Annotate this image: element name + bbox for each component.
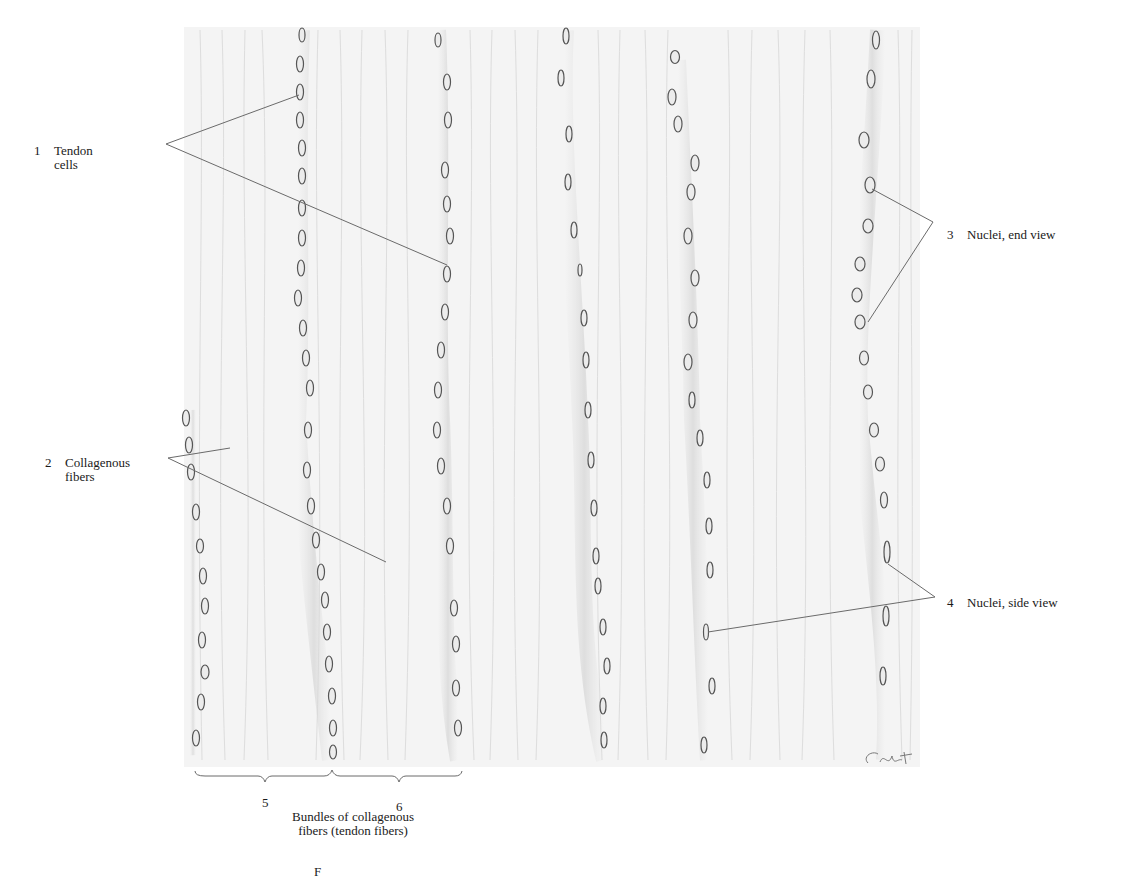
label-text-line2: fibers [45,470,130,484]
brace-5 [195,770,332,782]
label-bundle-5: 5 [262,795,269,811]
label-number: 4 [947,596,967,610]
label-number: 3 [947,228,967,242]
label-tendon-cells: 1Tendon cells [34,144,93,172]
label-text: Nuclei, end view [967,227,1055,242]
label-text: Nuclei, side view [967,595,1058,610]
label-number: 1 [34,144,54,158]
label-text: Collagenous [65,455,130,470]
label-text-line2: cells [34,158,93,172]
label-number: 2 [45,456,65,470]
bundle-braces [195,770,462,782]
label-text: Tendon [54,143,93,158]
figure-caption-fragment: F [314,864,321,880]
brace-6 [332,770,462,782]
label-nuclei-side-view: 4Nuclei, side view [947,596,1058,610]
label-nuclei-end-view: 3Nuclei, end view [947,228,1055,242]
bundles-caption-line2: fibers (tendon fibers) [258,824,448,838]
bundles-caption: Bundles of collagenous fibers (tendon fi… [258,810,448,838]
bundles-caption-line1: Bundles of collagenous [258,810,448,824]
label-collagenous-fibers: 2Collagenous fibers [45,456,130,484]
